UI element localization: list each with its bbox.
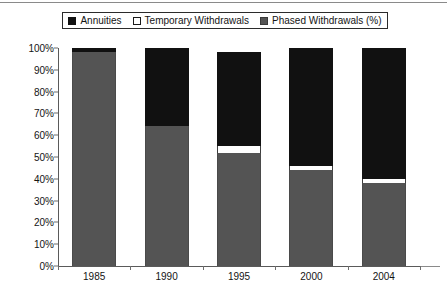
x-axis-tick-label: 2000 bbox=[281, 271, 341, 282]
x-axis-tick-label: 2004 bbox=[354, 271, 414, 282]
bar-segment-annuities bbox=[362, 48, 406, 179]
bar-segment-phased-withdrawals bbox=[362, 183, 406, 266]
bar-segment-annuities bbox=[145, 48, 189, 126]
y-axis-tick-label: 90% bbox=[34, 64, 54, 75]
bar-group bbox=[217, 48, 261, 266]
x-axis-right-extension bbox=[420, 266, 440, 267]
bar-segment-phased-withdrawals bbox=[72, 52, 116, 266]
legend-swatch-annuities-icon bbox=[68, 17, 76, 25]
y-axis-tick-label: 100% bbox=[28, 43, 54, 54]
x-axis-tick-label: 1985 bbox=[64, 271, 124, 282]
y-axis-tick-label: 40% bbox=[34, 173, 54, 184]
y-axis-tick-label: 80% bbox=[34, 86, 54, 97]
bar-group bbox=[145, 48, 189, 266]
x-axis-tick-mark bbox=[348, 266, 349, 270]
legend-label-annuities: Annuities bbox=[80, 16, 121, 26]
legend-item-phased-withdrawals: Phased Withdrawals (%) bbox=[260, 16, 381, 26]
x-axis-tick-mark bbox=[203, 266, 204, 270]
bar-segment-phased-withdrawals bbox=[289, 170, 333, 266]
bar-segment-temporary-withdrawals bbox=[362, 179, 406, 183]
chart-legend: Annuities Temporary Withdrawals Phased W… bbox=[62, 12, 388, 29]
y-axis-tick-label: 70% bbox=[34, 108, 54, 119]
x-axis-tick-mark bbox=[130, 266, 131, 270]
bar-segment-annuities bbox=[72, 48, 116, 52]
chart-container: Annuities Temporary Withdrawals Phased W… bbox=[0, 0, 447, 291]
x-axis-tick-mark bbox=[275, 266, 276, 270]
x-axis-tick-label: 1995 bbox=[209, 271, 269, 282]
bar-segment-phased-withdrawals bbox=[145, 126, 189, 266]
bar-segment-temporary-withdrawals bbox=[289, 166, 333, 170]
y-axis-tick-label: 60% bbox=[34, 130, 54, 141]
y-axis-tick-label: 0% bbox=[40, 261, 54, 272]
y-axis-tick-label: 10% bbox=[34, 239, 54, 250]
legend-item-temporary-withdrawals: Temporary Withdrawals bbox=[133, 16, 249, 26]
bar-group bbox=[289, 48, 333, 266]
bar-segment-annuities bbox=[217, 52, 261, 146]
y-axis-tick-label: 20% bbox=[34, 217, 54, 228]
legend-item-annuities: Annuities bbox=[68, 16, 121, 26]
bar-group bbox=[362, 48, 406, 266]
bar-segment-temporary-withdrawals bbox=[217, 146, 261, 153]
y-axis-tick-label: 30% bbox=[34, 195, 54, 206]
x-axis-tick-mark bbox=[58, 266, 59, 270]
legend-swatch-temporary-icon bbox=[133, 17, 141, 25]
x-axis-tick-mark bbox=[420, 266, 421, 270]
y-axis-labels: 0%10%20%30%40%50%60%70%80%90%100% bbox=[8, 0, 54, 291]
legend-label-phased-withdrawals: Phased Withdrawals (%) bbox=[272, 16, 381, 26]
page-top-rule bbox=[0, 2, 447, 3]
y-axis-tick-label: 50% bbox=[34, 152, 54, 163]
legend-label-temporary-withdrawals: Temporary Withdrawals bbox=[145, 16, 249, 26]
bar-segment-annuities bbox=[289, 48, 333, 166]
x-axis-tick-label: 1990 bbox=[137, 271, 197, 282]
bar-segment-phased-withdrawals bbox=[217, 153, 261, 266]
legend-swatch-phased-icon bbox=[260, 17, 268, 25]
bar-group bbox=[72, 48, 116, 266]
